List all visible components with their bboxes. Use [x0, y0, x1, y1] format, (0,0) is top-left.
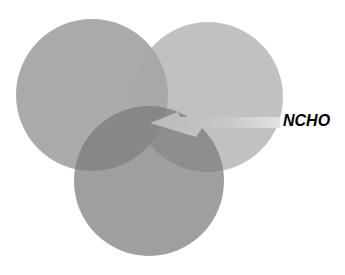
- venn-diagram: [0, 0, 345, 275]
- ncho-label: NCHO: [283, 112, 330, 130]
